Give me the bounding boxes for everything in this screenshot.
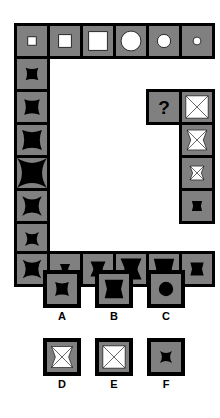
cell-left-3 xyxy=(14,122,50,158)
x-bowtie-icon xyxy=(182,158,212,188)
option-e-label: E xyxy=(95,378,133,390)
star-circle-icon xyxy=(17,158,47,188)
square-icon xyxy=(50,26,80,56)
cell-left-5 xyxy=(14,188,50,224)
cell-right-3 xyxy=(179,155,215,191)
cell-left-1 xyxy=(14,56,50,92)
option-d[interactable]: D xyxy=(43,338,81,390)
x-square-icon xyxy=(182,92,212,122)
cell-left-2 xyxy=(14,89,50,125)
square-icon xyxy=(17,26,47,56)
star-square-icon xyxy=(17,125,47,155)
x-bowtie-icon xyxy=(182,125,212,155)
cell-top-3 xyxy=(80,23,116,59)
star-circle-icon xyxy=(17,224,47,254)
puzzle-matrix: ? xyxy=(0,0,220,265)
cell-right-1 xyxy=(179,89,215,125)
circle-icon xyxy=(149,26,179,56)
cell-top-5 xyxy=(146,23,182,59)
option-d-tile[interactable] xyxy=(43,338,81,376)
cell-left-4 xyxy=(14,155,50,191)
option-b-label: B xyxy=(95,310,133,322)
option-a-tile[interactable] xyxy=(43,270,81,308)
option-e[interactable]: E xyxy=(95,338,133,390)
option-b[interactable]: B xyxy=(95,270,133,322)
option-b-tile[interactable] xyxy=(95,270,133,308)
cell-top-6 xyxy=(179,23,215,59)
star-square-icon xyxy=(17,92,47,122)
x-square-icon xyxy=(99,342,129,372)
circle-icon xyxy=(116,26,146,56)
option-c-label: C xyxy=(147,310,185,322)
star-circle-icon xyxy=(151,342,181,372)
bowtie-square-icon xyxy=(182,191,212,221)
bowtie-square-icon xyxy=(99,274,129,304)
option-a-label: A xyxy=(43,310,81,322)
square-icon xyxy=(83,26,113,56)
star-square-icon xyxy=(17,59,47,89)
option-f-label: F xyxy=(147,378,185,390)
star-square-icon xyxy=(47,274,77,304)
cell-right-2 xyxy=(179,122,215,158)
answer-options: ABCDEF xyxy=(0,270,220,418)
question-mark: ? xyxy=(149,92,179,122)
option-c-tile[interactable] xyxy=(147,270,185,308)
x-bowtie-icon xyxy=(47,342,77,372)
star-circle-icon xyxy=(17,191,47,221)
cell-top-1 xyxy=(14,23,50,59)
option-e-tile[interactable] xyxy=(95,338,133,376)
option-d-label: D xyxy=(43,378,81,390)
option-f-tile[interactable] xyxy=(147,338,185,376)
cell-question: ? xyxy=(146,89,182,125)
option-a[interactable]: A xyxy=(43,270,81,322)
circle-icon xyxy=(182,26,212,56)
option-f[interactable]: F xyxy=(147,338,185,390)
option-c[interactable]: C xyxy=(147,270,185,322)
cell-right-4 xyxy=(179,188,215,224)
circle-icon xyxy=(151,274,181,304)
cell-top-2 xyxy=(47,23,83,59)
cell-top-4 xyxy=(113,23,149,59)
